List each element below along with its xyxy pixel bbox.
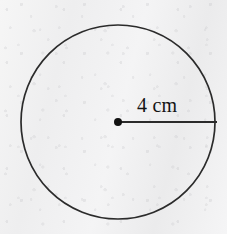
radius-dimension-label: 4 cm: [137, 95, 177, 115]
diagram-canvas: [0, 0, 227, 234]
circle-diagram-figure: 4 cm: [0, 0, 227, 234]
center-dot: [114, 118, 122, 126]
